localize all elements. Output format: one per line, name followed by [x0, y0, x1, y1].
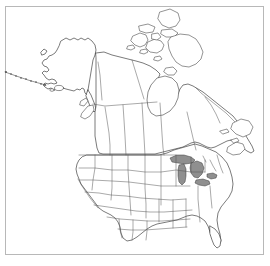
- region-baffin-island: [168, 34, 203, 67]
- region-nova-scotia: [227, 142, 245, 155]
- region-alaska-mainland: [42, 38, 96, 95]
- region-ellesmere-island: [158, 9, 180, 28]
- region-victoria-island: [146, 39, 164, 53]
- region-prince-of-wales-island: [152, 33, 161, 40]
- region-melville-island: [139, 24, 155, 33]
- map-figure: North America outline map United States …: [0, 0, 270, 266]
- region-haida-gwaii: [80, 98, 88, 106]
- region-vancouver-island: [81, 105, 94, 119]
- region-arctic-islet-1: [127, 45, 135, 50]
- region-arctic-islet-3: [154, 56, 162, 61]
- region-alaska: [41, 49, 47, 55]
- feature-lake-michigan: [178, 164, 186, 185]
- north-america-map: [0, 0, 270, 266]
- region-southampton-island: [164, 67, 177, 75]
- region-florida-peninsula: [210, 226, 221, 248]
- region-banks-island: [131, 33, 148, 47]
- region-arctic-islet-2: [140, 49, 148, 54]
- region-contiguous-united-states: [76, 144, 233, 245]
